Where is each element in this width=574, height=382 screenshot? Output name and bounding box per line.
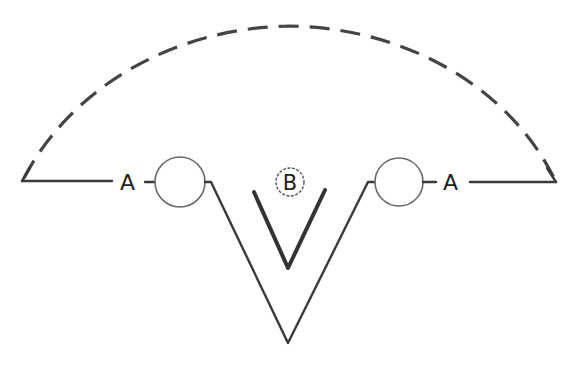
left-corner	[22, 168, 30, 181]
diagram-canvas: A B A	[0, 0, 574, 382]
left-terminal-label: A	[120, 170, 135, 195]
center-marker-label: B	[283, 171, 297, 195]
right-circle-node	[375, 158, 423, 206]
dashed-arc	[24, 26, 554, 178]
left-circle-node	[155, 157, 205, 207]
inner-v	[254, 190, 325, 268]
right-terminal-label: A	[443, 170, 458, 195]
